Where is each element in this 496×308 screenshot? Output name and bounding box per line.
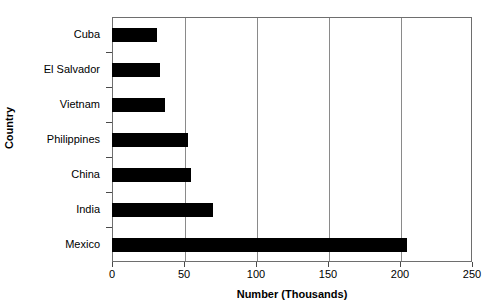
bar: [112, 98, 165, 112]
x-axis-tick: [256, 262, 257, 267]
y-axis-minor-tick: [106, 87, 112, 88]
bar-chart: CubaEl SalvadorVietnamPhilippinesChinaIn…: [0, 0, 496, 308]
y-axis-label: Vietnam: [0, 99, 106, 110]
y-axis-label: El Salvador: [0, 64, 106, 75]
x-axis-tick-label: 200: [380, 269, 420, 280]
x-axis-tick-label: 250: [452, 269, 492, 280]
x-axis-tick-label: 150: [308, 269, 348, 280]
y-axis-title: Country: [3, 98, 15, 158]
y-axis-label: Mexico: [0, 239, 106, 250]
x-axis-tick-label: 50: [164, 269, 204, 280]
bar: [112, 28, 157, 42]
x-axis-tick: [112, 262, 113, 267]
bar: [112, 203, 213, 217]
x-axis-title: Number (Thousands): [112, 288, 472, 300]
x-axis-tick: [400, 262, 401, 267]
y-axis-label: Philippines: [0, 134, 106, 145]
gridline: [257, 18, 258, 261]
bar: [112, 238, 407, 252]
y-axis-label: Cuba: [0, 29, 106, 40]
y-axis-label: India: [0, 204, 106, 215]
gridline: [329, 18, 330, 261]
x-axis-tick-label: 100: [236, 269, 276, 280]
y-axis-minor-tick: [106, 122, 112, 123]
x-axis-tick-label: 0: [92, 269, 132, 280]
x-axis-tick: [184, 262, 185, 267]
y-axis-minor-tick: [106, 157, 112, 158]
gridline: [401, 18, 402, 261]
x-axis-tick: [328, 262, 329, 267]
y-axis-minor-tick: [106, 192, 112, 193]
y-axis-minor-tick: [106, 227, 112, 228]
bar: [112, 133, 188, 147]
x-axis-tick: [472, 262, 473, 267]
bar: [112, 63, 160, 77]
y-axis-label: China: [0, 169, 106, 180]
y-axis-minor-tick: [106, 52, 112, 53]
bar: [112, 168, 191, 182]
